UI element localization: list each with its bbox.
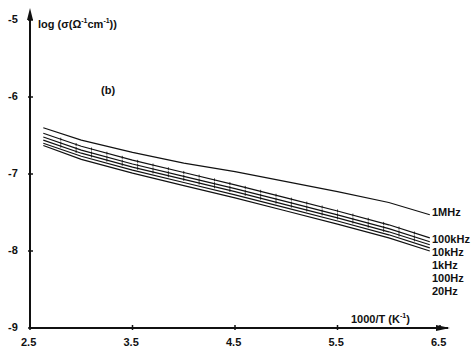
- curves: [43, 128, 430, 251]
- x-tick-label: 5.5: [329, 336, 344, 348]
- y-tick-label: -5: [8, 13, 18, 25]
- conductivity-chart: [0, 0, 476, 356]
- y-tick-label: -7: [8, 167, 18, 179]
- legend-label-10khz: 10kHz: [432, 246, 464, 258]
- x-tick-label: 4.5: [226, 336, 241, 348]
- y-tick-label: -9: [8, 321, 18, 333]
- y-tick-label: -6: [8, 90, 18, 102]
- curve-100khz: [43, 133, 430, 238]
- y-tick-label: -8: [8, 244, 18, 256]
- legend-label-100hz: 100Hz: [432, 272, 464, 284]
- x-tick-label: 3.5: [124, 336, 139, 348]
- axes: [27, 8, 450, 331]
- legend-label-100khz: 100kHz: [432, 233, 470, 245]
- y-axis-label: log (σ(Ω-1cm-1)): [38, 17, 117, 30]
- x-axis-arrow-icon: [436, 325, 450, 331]
- legend-label-1khz: 1kHz: [432, 259, 458, 271]
- curve-1mhz: [43, 128, 430, 215]
- x-tick-label: 2.5: [21, 336, 36, 348]
- legend-label-20hz: 20Hz: [432, 285, 458, 297]
- x-tick-label: 6.5: [431, 336, 446, 348]
- legend-label-1mhz: 1MHz: [432, 206, 461, 218]
- x-axis-label: 1000/T (K-1): [351, 312, 410, 325]
- y-axis-arrow-icon: [27, 8, 33, 20]
- panel-label: (b): [101, 84, 115, 96]
- curve-10khz: [43, 137, 430, 242]
